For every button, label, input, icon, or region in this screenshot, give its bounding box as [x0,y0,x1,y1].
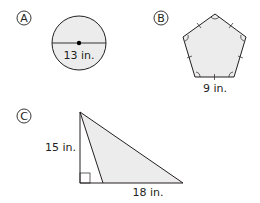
badge-a: A [17,11,31,25]
pentagon-shape [183,14,246,77]
triangle-base-label: 18 in. [132,186,163,199]
triangle-height-label: 15 in. [45,141,76,154]
badge-a-label: A [20,12,28,25]
figure-b: B 9 in. [154,11,246,95]
badge-b: B [154,11,168,25]
circle-diameter-label: 13 in. [63,49,94,62]
triangle-shape [80,112,183,183]
figure-c: C 15 in. 18 in. [17,109,183,199]
pentagon-side-label: 9 in. [203,82,227,95]
right-angle-mark [80,173,90,183]
figures-canvas: A 13 in. B 9 in. [0,0,260,203]
badge-c: C [17,109,31,123]
badge-b-label: B [157,12,165,25]
circle-center-dot [77,41,81,45]
badge-c-label: C [20,110,28,123]
figure-a: A 13 in. [17,11,106,70]
